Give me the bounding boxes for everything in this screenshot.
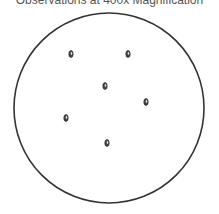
- specimen-highlight: [128, 52, 130, 55]
- field-of-view-circle: [14, 13, 204, 203]
- specimen-highlight: [107, 141, 109, 144]
- microscope-field-diagram: [0, 0, 219, 214]
- specimen-highlight: [71, 52, 73, 55]
- specimen-group: [64, 51, 148, 147]
- specimen-highlight: [66, 116, 68, 119]
- specimen-highlight: [105, 84, 107, 87]
- specimen-highlight: [146, 100, 148, 103]
